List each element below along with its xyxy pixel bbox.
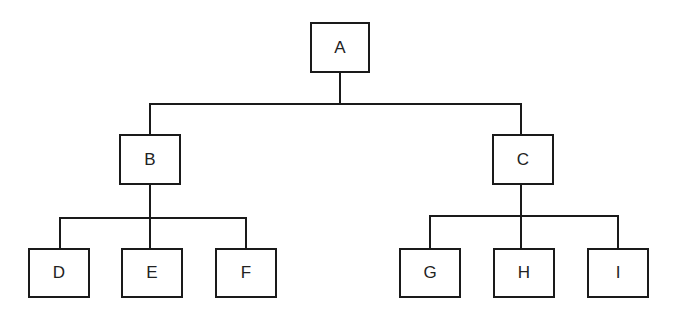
connector-e-drop: [149, 217, 151, 249]
node-c-label: C: [517, 150, 529, 170]
node-i: I: [587, 248, 649, 298]
node-a: A: [310, 22, 370, 73]
node-b-label: B: [144, 150, 155, 170]
node-b: B: [119, 134, 181, 185]
connector-b-children-bar: [59, 217, 247, 219]
node-f: F: [215, 248, 277, 298]
connector-level1-bar: [149, 103, 522, 105]
node-d-label: D: [53, 263, 65, 283]
node-a-label: A: [334, 38, 345, 58]
node-e: E: [121, 248, 183, 298]
connector-b-drop: [149, 103, 151, 135]
node-f-label: F: [241, 263, 251, 283]
node-c: C: [492, 134, 554, 185]
connector-c-stem: [520, 184, 522, 217]
connector-i-drop: [617, 215, 619, 249]
node-i-label: I: [616, 263, 621, 283]
node-d: D: [28, 248, 90, 298]
connector-b-stem: [149, 184, 151, 218]
node-g: G: [399, 248, 461, 298]
connector-a-stem: [339, 72, 341, 105]
node-h: H: [493, 248, 555, 298]
connector-h-drop: [520, 215, 522, 249]
connector-d-drop: [59, 217, 61, 249]
connector-c-drop: [520, 103, 522, 135]
connector-f-drop: [245, 217, 247, 249]
connector-g-drop: [429, 215, 431, 249]
node-e-label: E: [146, 263, 157, 283]
node-g-label: G: [423, 263, 436, 283]
node-h-label: H: [518, 263, 530, 283]
connector-c-children-bar: [429, 215, 619, 217]
